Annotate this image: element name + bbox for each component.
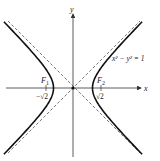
hyperbola-diagram: y x F1 F2 −√2 √2 x² − y² = 1 xyxy=(0,0,160,161)
origin-dot xyxy=(71,86,74,89)
focus-2-label: F2 xyxy=(96,76,105,86)
focus-1-label: F1 xyxy=(40,76,49,86)
focus-2-value-label: √2 xyxy=(96,92,104,101)
diagram-svg: y x F1 F2 −√2 √2 x² − y² = 1 xyxy=(0,0,160,161)
x-axis-label: x xyxy=(143,84,148,93)
equation-label: x² − y² = 1 xyxy=(111,54,145,63)
y-axis-label: y xyxy=(69,5,74,14)
focus-1-value-label: −√2 xyxy=(36,92,48,101)
